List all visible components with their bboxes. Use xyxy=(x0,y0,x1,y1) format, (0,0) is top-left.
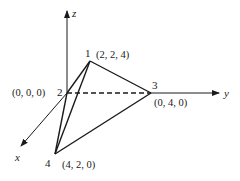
vertex-2-coords: (0, 0, 0) xyxy=(12,87,46,99)
z-axis-label: z xyxy=(71,7,77,19)
tetrahedron-edges xyxy=(55,61,151,154)
x-axis-label: x xyxy=(14,151,20,163)
edge-1-3 xyxy=(90,61,151,93)
edge-2-1 xyxy=(67,61,90,93)
x-axis xyxy=(21,93,67,146)
vertex-2-label: 2 xyxy=(57,86,63,98)
tetrahedron-diagram: z y x 1 (2, 2, 4) 2 (0, 0, 0) 3 (0, 4, 0… xyxy=(0,0,240,181)
vertex-3-coords: (0, 4, 0) xyxy=(154,97,188,109)
vertex-1-label: 1 xyxy=(85,47,91,59)
vertex-3-label: 3 xyxy=(152,79,158,91)
edge-3-4 xyxy=(55,93,151,154)
vertex-4-coords: (4, 2, 0) xyxy=(62,159,96,171)
vertex-1-coords: (2, 2, 4) xyxy=(96,49,130,61)
axes xyxy=(21,11,219,146)
edge-1-4 xyxy=(55,61,90,154)
vertex-4-label: 4 xyxy=(45,157,51,169)
edge-2-4 xyxy=(55,93,67,154)
y-axis-label: y xyxy=(223,87,229,99)
